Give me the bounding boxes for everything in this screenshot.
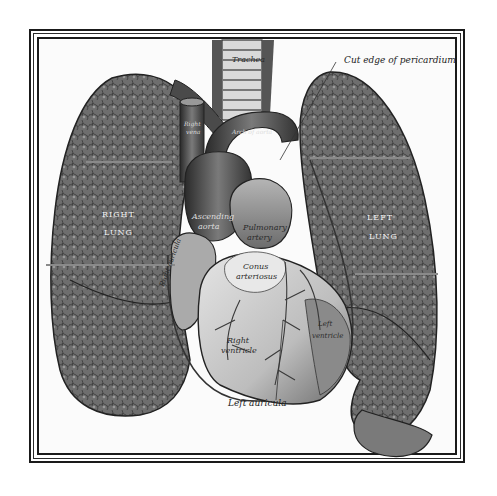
- label-svc-1: Right: [184, 120, 201, 127]
- label-conus-1: Conus: [243, 262, 268, 271]
- label-right-ventricle-1: Right: [227, 336, 249, 345]
- anatomy-illustration: [0, 0, 497, 496]
- label-right-lung-1: RIGHT: [102, 210, 135, 219]
- label-trachea: Trachea: [232, 55, 265, 64]
- label-arch: Arch of aorta: [232, 128, 272, 135]
- label-left-lung-2: LUNG: [369, 232, 398, 241]
- label-ascending-aorta-2: aorta: [198, 222, 219, 231]
- label-right-ventricle-2: ventricle: [221, 346, 257, 355]
- label-ascending-aorta-1: Ascending: [192, 212, 234, 221]
- label-conus-2: arteriosus: [236, 272, 277, 281]
- label-left-auricula: Left auricula: [228, 398, 287, 408]
- label-pericardium: Cut edge of pericardium: [344, 55, 456, 65]
- label-right-lung-2: LUNG: [104, 228, 133, 237]
- label-pulmonary-artery-2: artery: [247, 233, 272, 242]
- label-left-ventricle-1: Left: [318, 320, 332, 328]
- label-svc-2: vena: [186, 128, 200, 135]
- label-left-lung-1: LEFT: [367, 213, 393, 222]
- label-left-ventricle-2: ventricle: [312, 332, 343, 340]
- trachea: [212, 40, 274, 120]
- label-pulmonary-artery-1: Pulmonary: [243, 223, 287, 232]
